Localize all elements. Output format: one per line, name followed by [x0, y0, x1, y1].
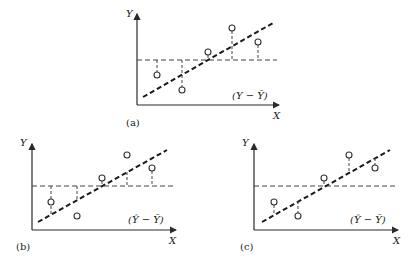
panel-a: Y X (Y − Ȳ) (a): [126, 8, 281, 128]
y-axis-label: Y: [20, 137, 28, 148]
deviation-label: (Ŷ − Ȳ): [350, 214, 386, 225]
panel-caption: (a): [126, 117, 140, 128]
data-point: [149, 165, 155, 171]
data-point: [154, 72, 160, 78]
regression-deviation-diagram: Y X (Y − Ȳ) (a) Y X (Ŷ − Ȳ) (b): [0, 0, 419, 260]
panel-caption: (b): [16, 241, 30, 252]
data-point: [271, 199, 277, 205]
data-point: [295, 213, 301, 219]
panel-b: Y X (Ŷ − Ȳ) (b): [16, 137, 177, 252]
x-axis-label: X: [392, 235, 401, 246]
x-axis-label: X: [168, 235, 177, 246]
data-point: [48, 199, 54, 205]
data-point: [321, 175, 327, 181]
data-point: [124, 152, 130, 158]
data-point: [205, 49, 211, 55]
data-point: [74, 213, 80, 219]
panel-c: Y X (Ŷ − Ȳ) (c): [240, 137, 401, 252]
x-axis-label: X: [272, 110, 281, 121]
data-point: [229, 25, 235, 31]
data-point: [372, 165, 378, 171]
y-axis-label: Y: [126, 8, 134, 19]
data-point: [346, 152, 352, 158]
data-point: [255, 39, 261, 45]
deviation-label: (Ŷ − Ȳ): [128, 214, 164, 225]
y-axis-label: Y: [242, 137, 250, 148]
deviation-label: (Y − Ȳ): [232, 90, 268, 101]
data-point: [99, 175, 105, 181]
data-point: [179, 87, 185, 93]
panel-caption: (c): [240, 241, 254, 252]
